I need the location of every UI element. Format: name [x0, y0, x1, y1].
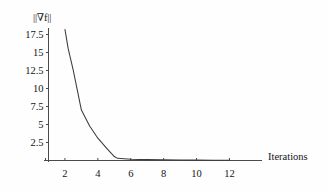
convergence-chart: ||∇f|| Iterations 2.557.51012.51517.5 24…: [0, 0, 329, 192]
y-tick-label: 12.5: [0, 65, 44, 76]
x-tick-label: 12: [224, 169, 235, 180]
x-tick-label: 6: [128, 169, 133, 180]
y-axis-title: ||∇f||: [33, 13, 51, 24]
y-tick-label: 17.5: [0, 29, 44, 40]
x-tick-label: 2: [62, 169, 67, 180]
x-tick-label: 8: [161, 169, 166, 180]
x-axis-title: Iterations: [268, 152, 308, 163]
x-tick-label: 10: [191, 169, 202, 180]
y-tick-label: 10: [0, 83, 44, 94]
y-tick-label: 5: [0, 119, 44, 130]
data-series-gradient-norm: [65, 29, 230, 160]
y-tick-label: 15: [0, 47, 44, 58]
y-tick-label: 7.5: [0, 101, 44, 112]
x-tick-label: 4: [95, 169, 100, 180]
y-tick-label: 2.5: [0, 137, 44, 148]
plot-canvas: [0, 0, 329, 192]
